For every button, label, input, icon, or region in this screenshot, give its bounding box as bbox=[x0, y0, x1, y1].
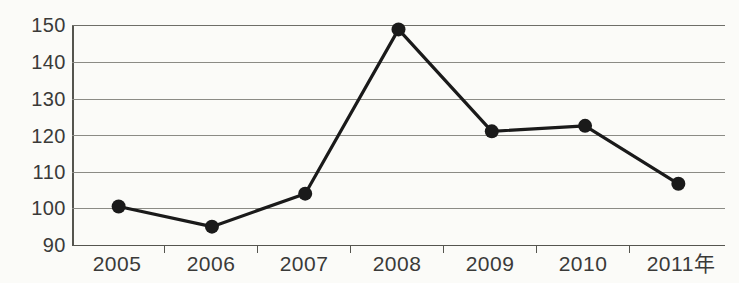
y-tick-label-120: 120 bbox=[10, 126, 66, 146]
x-tick-2 bbox=[257, 246, 258, 253]
gridline-120 bbox=[72, 135, 725, 136]
gridline-90-baseline bbox=[72, 245, 725, 246]
x-tick-label-2008: 2008 bbox=[373, 252, 422, 276]
y-tick-label-90: 90 bbox=[10, 235, 66, 255]
gridline-110 bbox=[72, 172, 725, 173]
y-axis-labels: 150 140 130 120 110 100 90 bbox=[0, 0, 66, 283]
x-tick-label-2011: 2011年 bbox=[647, 252, 716, 276]
y-tick-label-150: 150 bbox=[10, 15, 66, 35]
line-chart: 150 140 130 120 110 100 90 2005 2006 200… bbox=[0, 0, 739, 283]
plot-area bbox=[72, 25, 725, 245]
x-tick-label-2007: 2007 bbox=[280, 252, 329, 276]
y-tick-label-100: 100 bbox=[10, 198, 66, 218]
x-tick-1 bbox=[164, 246, 165, 253]
x-tick-6 bbox=[629, 246, 630, 253]
gridline-140 bbox=[72, 62, 725, 63]
x-tick-label-2006: 2006 bbox=[187, 252, 236, 276]
x-tick-3 bbox=[350, 246, 351, 253]
x-tick-label-2005: 2005 bbox=[93, 252, 142, 276]
gridline-100 bbox=[72, 208, 725, 209]
x-tick-label-2009: 2009 bbox=[466, 252, 515, 276]
y-tick-label-140: 140 bbox=[10, 52, 66, 72]
gridline-150 bbox=[72, 25, 725, 26]
gridline-130 bbox=[72, 99, 725, 100]
x-tick-4 bbox=[443, 246, 444, 253]
y-tick-label-130: 130 bbox=[10, 89, 66, 109]
y-tick-label-110: 110 bbox=[10, 162, 66, 182]
x-tick-5 bbox=[536, 246, 537, 253]
x-tick-label-2010: 2010 bbox=[559, 252, 608, 276]
